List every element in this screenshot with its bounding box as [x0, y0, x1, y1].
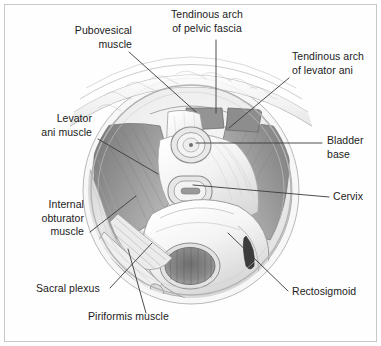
label-sacral-plexus: Sacral plexus: [36, 282, 126, 296]
pelvic-cavity-contents: [76, 85, 291, 300]
figure-container: Pubovesical muscle Tendinous arch of pel…: [0, 0, 381, 346]
label-piriformis-muscle: Piriformis muscle: [88, 310, 208, 324]
label-cervix: Cervix: [333, 190, 381, 204]
label-pubovesical-muscle: Pubovesical muscle: [0, 24, 132, 51]
label-tendinous-arch-of-levator-ani: Tendinous arch of levator ani: [292, 50, 381, 77]
label-internal-obturator-muscle: Internal obturator muscle: [0, 198, 84, 239]
label-levator-ani-muscle: Levator ani muscle: [0, 112, 92, 139]
label-tendinous-arch-of-pelvic-fascia: Tendinous arch of pelvic fascia: [152, 8, 262, 35]
bladder-base-shape: [171, 127, 211, 163]
label-bladder-base: Bladder base: [327, 134, 381, 161]
label-rectosigmoid: Rectosigmoid: [292, 285, 381, 299]
